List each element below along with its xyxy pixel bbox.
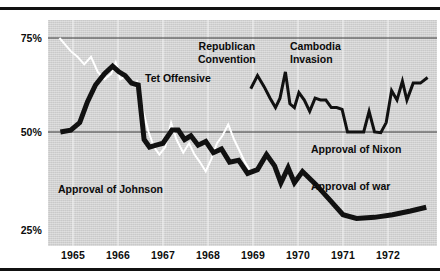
- y-axis-tick-75: 75%: [0, 32, 42, 44]
- annotation-republican-convention-line2: Convention: [198, 53, 256, 66]
- x-axis-tick-1965: 1965: [48, 249, 98, 261]
- y-axis-tick-50: 50%: [0, 126, 42, 138]
- annotation-republican-convention-line1: Republican: [198, 40, 256, 53]
- x-axis-tick-1966: 1966: [93, 249, 143, 261]
- x-axis-tick-1972: 1972: [363, 249, 413, 261]
- series-label-approval-of-war: Approval of war: [311, 180, 390, 192]
- y-axis-tick-25: 25%: [0, 224, 42, 236]
- x-axis-tick-1970: 1970: [273, 249, 323, 261]
- annotation-republican-convention: Republican Convention: [198, 40, 256, 66]
- series-label-approval-of-nixon: Approval of Nixon: [311, 143, 401, 155]
- x-axis-tick-1967: 1967: [138, 249, 188, 261]
- annotation-cambodia-invasion-line1: Cambodia: [290, 40, 341, 53]
- series-line-approval-of-nixon: [251, 72, 428, 133]
- x-axis-tick-1969: 1969: [228, 249, 278, 261]
- chart-figure: 75% 50% 25% 1965 1966 1967 1968 1969 197…: [0, 0, 440, 280]
- annotation-cambodia-invasion: Cambodia Invasion: [290, 40, 341, 66]
- annotation-tet-offensive: Tet Offensive: [145, 72, 211, 85]
- annotation-cambodia-invasion-line2: Invasion: [290, 53, 341, 66]
- series-label-approval-of-johnson: Approval of Johnson: [58, 183, 163, 195]
- x-axis-tick-1971: 1971: [318, 249, 368, 261]
- x-axis-tick-1968: 1968: [183, 249, 233, 261]
